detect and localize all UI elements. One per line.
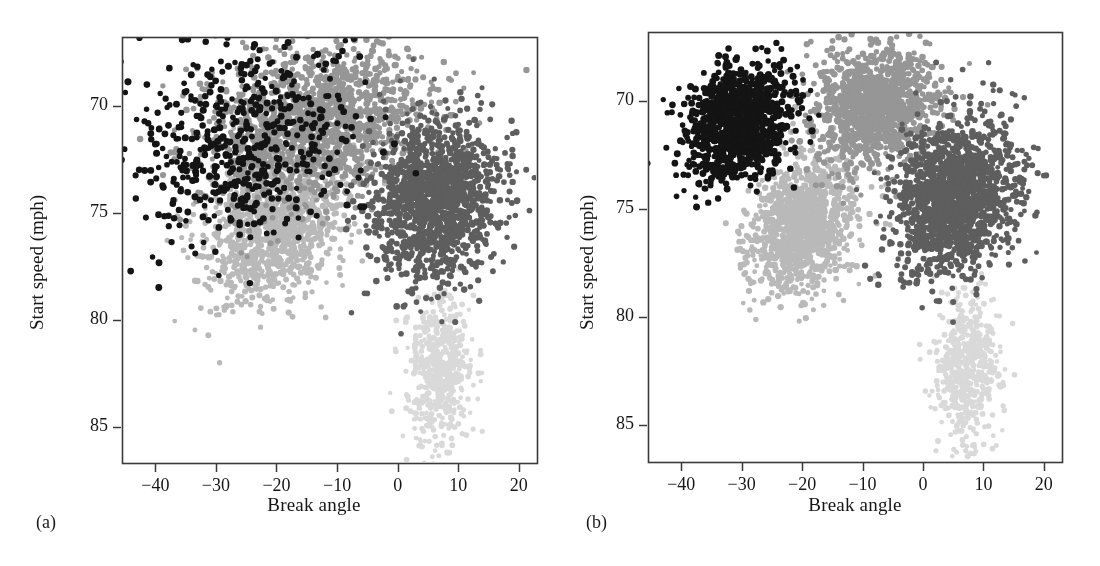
x-tick-label-a-2: −20 xyxy=(253,475,299,496)
y-tick-label-a-0: 85 xyxy=(68,415,108,436)
x-tick-label-b-1: −30 xyxy=(719,474,765,495)
x-tick-label-a-1: −30 xyxy=(193,475,239,496)
panel-label-b: (b) xyxy=(586,512,607,533)
x-tick-label-b-5: 10 xyxy=(960,474,1006,495)
y-tick-label-b-2: 75 xyxy=(594,197,634,218)
x-tick-label-a-6: 20 xyxy=(496,475,542,496)
x-tick-label-a-3: −10 xyxy=(314,475,360,496)
panel-label-a: (a) xyxy=(36,512,56,533)
x-axis-label-a: Break angle xyxy=(0,494,550,516)
y-axis-label-a: Start speed (mph) xyxy=(26,195,48,330)
y-tick-label-b-0: 85 xyxy=(594,413,634,434)
y-tick-label-a-1: 80 xyxy=(68,308,108,329)
x-axis-label-b: Break angle xyxy=(550,494,1100,516)
x-tick-label-b-6: 20 xyxy=(1021,474,1067,495)
x-tick-label-b-2: −20 xyxy=(779,474,825,495)
x-axis-label-b-text: Break angle xyxy=(808,494,901,515)
x-tick-label-b-0: −40 xyxy=(658,474,704,495)
x-axis-label-a-text: Break angle xyxy=(267,494,360,515)
x-tick-label-b-3: −10 xyxy=(840,474,886,495)
x-tick-label-a-5: 10 xyxy=(435,475,481,496)
x-tick-label-a-4: 0 xyxy=(375,475,421,496)
scatter-figure: Start speed (mph) Break angle (a) Start … xyxy=(0,0,1100,566)
y-tick-label-a-3: 70 xyxy=(68,94,108,115)
y-tick-label-b-1: 80 xyxy=(594,305,634,326)
x-tick-label-b-4: 0 xyxy=(900,474,946,495)
y-tick-label-a-2: 75 xyxy=(68,201,108,222)
y-tick-label-b-3: 70 xyxy=(594,89,634,110)
x-tick-label-a-0: −40 xyxy=(132,475,178,496)
